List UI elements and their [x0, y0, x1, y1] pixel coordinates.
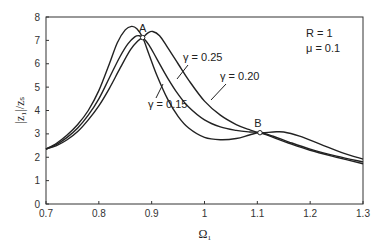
label-leader-line: [156, 84, 163, 98]
curve-label: γ = 0.20: [220, 70, 259, 82]
y-tick-label: 2: [34, 152, 40, 163]
curve-label: γ = 0.25: [183, 51, 222, 63]
x-axis-label: Ω₁: [198, 227, 211, 241]
param-mu: μ = 0.1: [306, 42, 340, 54]
y-tick-label: 4: [34, 105, 40, 116]
x-tick-label: 0.8: [92, 208, 106, 219]
x-tick-label: 1: [202, 208, 208, 219]
y-axis-label: |z₁|/zₛ: [13, 97, 27, 124]
x-tick-label: 1.3: [356, 208, 370, 219]
fixed-point-label: B: [254, 117, 261, 129]
y-tick-label: 6: [34, 58, 40, 69]
x-tick-label: 0.9: [145, 208, 159, 219]
y-tick-label: 5: [34, 82, 40, 93]
y-axis-ticks: 012345678: [34, 12, 49, 210]
curve-label: γ = 0.15: [148, 98, 187, 110]
fixed-point-marker: [258, 131, 262, 135]
y-tick-label: 8: [34, 12, 40, 23]
fixed-point-marker: [140, 35, 144, 39]
param-r: R = 1: [306, 27, 333, 39]
fixed-point-label: A: [139, 22, 147, 34]
y-tick-label: 1: [34, 175, 40, 186]
y-tick-label: 7: [34, 35, 40, 46]
label-leader-line: [211, 84, 226, 100]
x-tick-label: 1.1: [250, 208, 264, 219]
x-tick-label: 1.2: [303, 208, 317, 219]
y-tick-label: 0: [34, 199, 40, 210]
x-tick-label: 0.7: [39, 208, 53, 219]
y-tick-label: 3: [34, 128, 40, 139]
frequency-response-chart: 0.70.80.911.11.21.3 012345678 γ = 0.15γ …: [0, 0, 386, 241]
